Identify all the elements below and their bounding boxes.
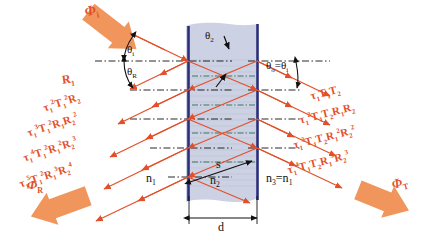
path-length-s-label: s [216,158,221,170]
index-n1-label: n1 [146,172,156,187]
thickness-d-label: d [218,221,224,233]
film-slab [186,23,258,202]
figure-canvas: Φi ΦR ΦT θi θR θ2 θo=θi n1 n2 n3=n1 d s … [0,0,427,238]
angle-refraction-label: θ2 [205,30,214,44]
index-n2-label: n2 [210,174,220,189]
angle-exit-label: θo=θi [266,60,288,74]
angle-reflection-label: θR [127,66,137,80]
angle-incidence-label: θi [127,44,134,58]
reflected-amplitude-label-1: R1 [61,72,75,88]
angle-bracket-exit [296,62,298,88]
incident-ray [130,33,188,61]
reflected-rays [96,61,188,221]
